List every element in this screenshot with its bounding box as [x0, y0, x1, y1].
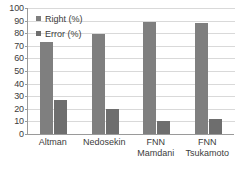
y-axis-tick-mark	[25, 134, 28, 135]
legend-item: Right (%)	[36, 11, 116, 26]
x-axis-labels: AltmanNedosekinFNN MamdaniFNN Tsukamoto	[27, 137, 233, 175]
y-axis-tick-label: 30	[14, 92, 24, 100]
legend-swatch-icon	[36, 31, 41, 36]
x-axis-category-label: FNN Tsukamoto	[182, 137, 234, 159]
chart-legend: Right (%)Error (%)	[36, 11, 116, 41]
bar-error	[106, 109, 119, 134]
x-axis-category-label: FNN Mamdani	[130, 137, 182, 159]
y-axis: 1009080706050403020100	[0, 8, 26, 134]
bar-error	[54, 100, 67, 134]
bar-right	[40, 42, 53, 134]
y-axis-tick-label: 10	[14, 117, 24, 125]
y-axis-tick-label: 20	[14, 105, 24, 113]
y-axis-tick-label: 100	[9, 4, 24, 12]
y-axis-tick-label: 80	[14, 29, 24, 37]
bar-error	[209, 119, 222, 134]
y-axis-tick-label: 60	[14, 54, 24, 62]
legend-label: Error (%)	[45, 29, 82, 39]
legend-item: Error (%)	[36, 26, 116, 41]
y-axis-tick-label: 0	[19, 130, 24, 138]
y-axis-tick-label: 90	[14, 17, 24, 25]
y-axis-tick-label: 70	[14, 42, 24, 50]
legend-swatch-icon	[36, 16, 41, 21]
x-axis-category-label: Nedosekin	[79, 137, 131, 148]
bar-right	[195, 23, 208, 134]
bar-group	[183, 8, 235, 134]
bar-group	[131, 8, 183, 134]
bar-right	[92, 34, 105, 134]
bar-chart: 1009080706050403020100 AltmanNedosekinFN…	[0, 0, 239, 177]
bar-error	[157, 121, 170, 134]
legend-label: Right (%)	[45, 14, 83, 24]
y-axis-tick-label: 50	[14, 67, 24, 75]
y-axis-tick-label: 40	[14, 80, 24, 88]
x-axis-category-label: Altman	[27, 137, 79, 148]
bar-right	[143, 22, 156, 134]
